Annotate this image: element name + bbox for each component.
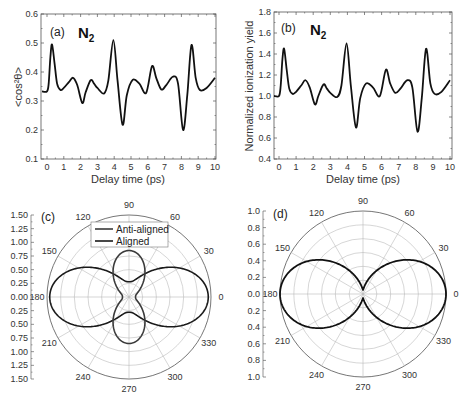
- svg-text:150: 150: [42, 246, 57, 256]
- svg-text:3: 3: [328, 162, 333, 172]
- svg-text:1.8: 1.8: [258, 7, 271, 17]
- svg-text:5: 5: [128, 162, 133, 172]
- svg-text:30: 30: [439, 243, 449, 253]
- legend: Anti-aligned Aligned: [91, 222, 169, 247]
- molecule-label: N2: [78, 24, 95, 44]
- svg-text:0.00: 0.00: [10, 292, 28, 302]
- svg-text:1: 1: [61, 162, 66, 172]
- svg-text:0: 0: [453, 289, 458, 299]
- svg-text:0.50: 0.50: [10, 319, 28, 329]
- svg-text:0.50: 0.50: [10, 265, 28, 275]
- svg-text:1.50: 1.50: [10, 210, 28, 220]
- svg-text:0.2: 0.2: [247, 272, 260, 282]
- svg-text:0.6: 0.6: [247, 239, 260, 249]
- svg-text:0.8: 0.8: [247, 355, 260, 365]
- svg-text:90: 90: [358, 196, 368, 206]
- alignment-curve: [42, 40, 215, 130]
- svg-text:120: 120: [309, 208, 324, 218]
- svg-text:1.00: 1.00: [10, 237, 28, 247]
- svg-text:1.0: 1.0: [258, 91, 271, 101]
- svg-text:3: 3: [95, 162, 100, 172]
- svg-text:330: 330: [436, 336, 451, 346]
- svg-text:10: 10: [210, 162, 220, 172]
- svg-text:8: 8: [179, 162, 184, 172]
- svg-text:60: 60: [404, 208, 414, 218]
- y-axis-label: Normalized ionization yield: [243, 21, 255, 152]
- svg-text:0.4: 0.4: [25, 67, 38, 77]
- svg-text:6: 6: [379, 162, 384, 172]
- legend-label-aligned: Aligned: [116, 236, 149, 247]
- svg-text:90: 90: [124, 200, 134, 210]
- panel-b-line-chart: 0123456789100.40.60.81.01.21.41.61.8 (b)…: [243, 7, 455, 185]
- ionization-yield-curve: [274, 44, 450, 132]
- svg-text:270: 270: [121, 384, 136, 394]
- svg-text:210: 210: [42, 338, 57, 348]
- svg-text:1.0: 1.0: [247, 206, 260, 216]
- svg-text:0.25: 0.25: [10, 306, 28, 316]
- figure: 0123456789100.10.20.30.40.50.6 (a) N2 De…: [0, 0, 462, 406]
- svg-text:0.75: 0.75: [10, 333, 28, 343]
- svg-text:0.2: 0.2: [25, 125, 38, 135]
- svg-text:0.6: 0.6: [258, 133, 271, 143]
- x-axis-label: Delay time (ps): [91, 173, 165, 185]
- svg-text:0.4: 0.4: [247, 322, 260, 332]
- svg-text:1.4: 1.4: [258, 49, 271, 59]
- svg-text:1.0: 1.0: [247, 372, 260, 382]
- svg-text:1.00: 1.00: [10, 347, 28, 357]
- svg-text:1.25: 1.25: [10, 360, 28, 370]
- svg-text:270: 270: [355, 382, 370, 392]
- svg-text:0.6: 0.6: [247, 339, 260, 349]
- panel-label: (d): [273, 207, 288, 221]
- svg-text:0.6: 0.6: [25, 9, 38, 19]
- svg-text:0.4: 0.4: [247, 256, 260, 266]
- svg-text:1.6: 1.6: [258, 28, 271, 38]
- svg-text:2: 2: [78, 162, 83, 172]
- svg-text:240: 240: [309, 370, 324, 380]
- y-axis-label: <cos²θ>: [12, 67, 24, 107]
- x-axis-label: Delay time (ps): [326, 173, 400, 185]
- svg-text:0.8: 0.8: [258, 112, 271, 122]
- svg-text:330: 330: [201, 338, 216, 348]
- svg-text:0.4: 0.4: [258, 154, 271, 164]
- panel-label: (c): [41, 210, 55, 224]
- svg-text:300: 300: [402, 370, 417, 380]
- svg-text:10: 10: [445, 162, 455, 172]
- svg-text:0.8: 0.8: [247, 223, 260, 233]
- svg-text:0.25: 0.25: [10, 278, 28, 288]
- svg-text:210: 210: [275, 336, 290, 346]
- svg-text:4: 4: [112, 162, 117, 172]
- panel-label: (a): [50, 25, 65, 39]
- svg-text:0.2: 0.2: [247, 306, 260, 316]
- svg-text:2: 2: [311, 162, 316, 172]
- svg-text:30: 30: [204, 246, 214, 256]
- svg-text:60: 60: [170, 212, 180, 222]
- svg-text:0.75: 0.75: [10, 251, 28, 261]
- panel-c-polar-chart: 0306090120150180210240270300330 1.501.25…: [10, 200, 223, 394]
- svg-text:6: 6: [145, 162, 150, 172]
- svg-text:8: 8: [413, 162, 418, 172]
- svg-text:150: 150: [275, 243, 290, 253]
- svg-text:0: 0: [218, 292, 223, 302]
- svg-text:4: 4: [345, 162, 350, 172]
- svg-text:1.50: 1.50: [10, 374, 28, 384]
- svg-text:9: 9: [430, 162, 435, 172]
- panel-label: (b): [281, 21, 296, 35]
- molecule-label: N2: [310, 21, 327, 41]
- svg-text:0: 0: [44, 162, 49, 172]
- svg-text:0: 0: [276, 162, 281, 172]
- svg-text:7: 7: [396, 162, 401, 172]
- svg-text:9: 9: [196, 162, 201, 172]
- panel-a-line-chart: 0123456789100.10.20.30.40.50.6 (a) N2 De…: [12, 9, 220, 185]
- panel-d-polar-chart: 0306090120150180210240270300330 1.00.80.…: [247, 196, 458, 392]
- svg-text:0.1: 0.1: [25, 154, 38, 164]
- svg-text:7: 7: [162, 162, 167, 172]
- polar-grid: 0306090120150180210240270300330: [262, 196, 458, 392]
- svg-text:240: 240: [75, 372, 90, 382]
- svg-text:0.3: 0.3: [25, 96, 38, 106]
- legend-label-anti-aligned: Anti-aligned: [116, 224, 169, 235]
- radial-scale: 1.00.80.60.40.20.00.20.40.60.81.0: [247, 206, 266, 382]
- svg-text:300: 300: [167, 372, 182, 382]
- svg-text:1.25: 1.25: [10, 224, 28, 234]
- svg-text:5: 5: [362, 162, 367, 172]
- svg-text:1.2: 1.2: [258, 70, 271, 80]
